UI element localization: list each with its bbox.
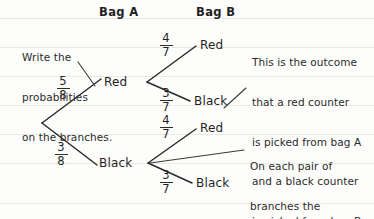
annotation-line: branches the <box>250 200 339 213</box>
column-header-bag-a: Bag A <box>99 6 139 20</box>
annotation-line: probabilities <box>22 91 112 104</box>
annotation-line: Write the <box>22 51 112 64</box>
node-label-black-red: Red <box>200 121 223 135</box>
annotation-line: that a red counter <box>252 96 365 109</box>
fraction-denominator: 7 <box>155 184 177 195</box>
fraction-denominator: 7 <box>155 47 177 58</box>
fraction-denominator: 7 <box>155 129 177 140</box>
fraction-denominator: 7 <box>155 102 177 113</box>
annotation-line: on the branches. <box>22 131 112 144</box>
probability-red-red: 4 7 <box>155 33 177 58</box>
fraction-numerator: 3 <box>155 170 177 181</box>
annotation-write-probabilities: Write the probabilities on the branches. <box>22 25 112 170</box>
annotation-line: On each pair of <box>250 160 339 173</box>
probability-black-red: 4 7 <box>155 115 177 140</box>
fraction-numerator: 3 <box>155 88 177 99</box>
probability-black-black: 3 7 <box>155 170 177 195</box>
annotation-sum-note: On each pair of branches the probabiliti… <box>250 134 339 219</box>
node-label-black-black: Black <box>196 176 229 190</box>
annotation-line: This is the outcome <box>252 56 365 69</box>
fraction-numerator: 4 <box>155 115 177 126</box>
probability-tree-diagram: Bag A Bag B Red Black Red Black Red Blac… <box>0 0 374 219</box>
node-label-red-red: Red <box>200 38 223 52</box>
node-label-red-black: Black <box>194 94 227 108</box>
column-header-bag-b: Bag B <box>196 6 236 20</box>
fraction-numerator: 4 <box>155 33 177 44</box>
probability-red-black: 3 7 <box>155 88 177 113</box>
